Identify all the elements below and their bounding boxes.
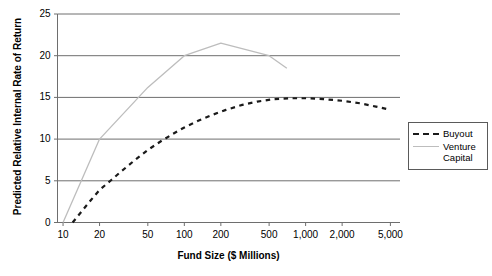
- x-tick-label: 20: [77, 230, 123, 240]
- legend-label-buyout: Buyout: [443, 128, 473, 139]
- x-axis-ticks: [63, 223, 390, 227]
- y-tick-label: 10: [21, 134, 51, 144]
- y-axis-ticks: [54, 14, 58, 223]
- chart-legend: Buyout Venture Capital: [408, 122, 488, 170]
- x-tick-label: 200: [198, 230, 244, 240]
- y-tick-label: 20: [21, 51, 51, 61]
- gridlines: [58, 14, 401, 181]
- y-tick-label: 15: [21, 92, 51, 102]
- legend-label-venture-capital: Venture Capital: [443, 141, 476, 163]
- x-tick-label: 2,000: [319, 230, 365, 240]
- y-tick-label: 0: [21, 218, 51, 228]
- x-tick-label: 5,000: [367, 230, 413, 240]
- y-tick-label: 25: [21, 9, 51, 19]
- y-tick-label: 5: [21, 176, 51, 186]
- chart-container: 0510152025 1020501002005001,0002,0005,00…: [0, 0, 492, 276]
- solid-line-icon: [413, 141, 439, 152]
- y-axis-title: Predicted Relative Internal Rate of Retu…: [12, 7, 23, 227]
- legend-item-buyout: Buyout: [409, 127, 487, 140]
- x-axis-title: Fund Size ($ Millions): [57, 250, 400, 261]
- legend-item-venture-capital: Venture Capital: [409, 140, 487, 164]
- dashed-line-icon: [413, 128, 439, 139]
